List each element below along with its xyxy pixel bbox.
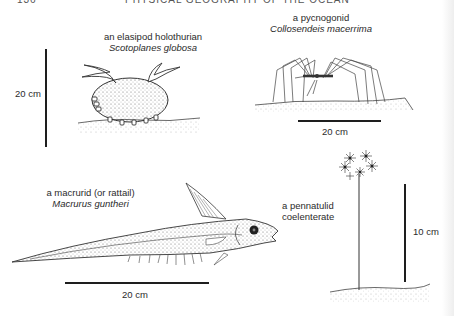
pycnogonid-scale-bar — [298, 120, 381, 122]
macrurid-scale-label: 20 cm — [122, 289, 148, 300]
macrurid-illustration — [10, 183, 290, 268]
holothurian-caption: an elasipod holothurian Scotoplanes glob… — [88, 31, 218, 53]
page-number: 136 — [17, 0, 37, 5]
holothurian-scale-label: 20 cm — [15, 88, 41, 99]
pennatulid-scale-bar — [404, 184, 406, 282]
holothurian-scale-bar — [45, 49, 47, 147]
pycnogonid-common-name: a pycnogonid — [256, 12, 386, 23]
running-header: 136 PHYSICAL GEOGRAPHY OF THE OCEAN — [0, 0, 454, 4]
holothurian-common-name: an elasipod holothurian — [88, 31, 218, 42]
book-page: 136 PHYSICAL GEOGRAPHY OF THE OCEAN an e… — [0, 0, 454, 316]
holothurian-latin-name: Scotoplanes globosa — [88, 42, 218, 53]
page-edge-shadow — [442, 0, 454, 316]
holothurian-illustration — [70, 55, 205, 135]
pycnogonid-caption: a pycnogonid Collosendeis macerrima — [256, 12, 386, 34]
pycnogonid-scale-label: 20 cm — [322, 126, 348, 137]
pennatulid-scale-label: 10 cm — [413, 226, 439, 237]
pycnogonid-latin-name: Collosendeis macerrima — [256, 23, 386, 34]
macrurid-scale-bar — [65, 282, 209, 284]
running-title: PHYSICAL GEOGRAPHY OF THE OCEAN — [125, 0, 350, 5]
pycnogonid-illustration — [255, 52, 415, 112]
